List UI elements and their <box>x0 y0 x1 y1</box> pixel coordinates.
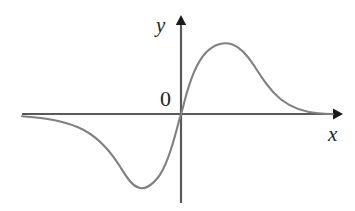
function-graph-figure: y x 0 <box>0 0 355 211</box>
function-curve <box>22 43 333 188</box>
plot-canvas <box>0 0 355 211</box>
x-axis-label: x <box>328 124 337 145</box>
origin-label: 0 <box>160 88 171 110</box>
arrow-up-icon <box>176 15 186 25</box>
arrow-right-icon <box>333 109 343 120</box>
y-axis-label: y <box>156 15 165 36</box>
